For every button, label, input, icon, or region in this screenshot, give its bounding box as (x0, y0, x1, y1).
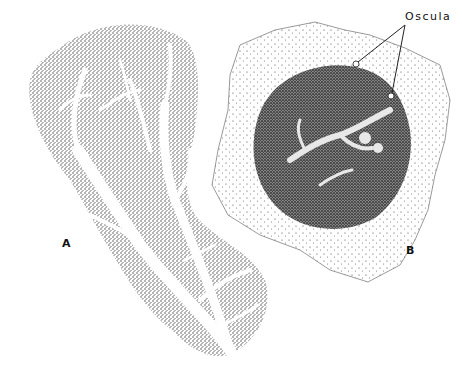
specimen-b (212, 22, 450, 282)
sponge-illustration (0, 0, 462, 380)
specimen-b-dark-mass (254, 65, 411, 229)
osculum-lower (388, 93, 394, 99)
oscula-callout-label: Oscula (405, 10, 451, 23)
specimen-b-label: B (406, 244, 415, 257)
specimen-a-label: A (62, 237, 71, 250)
